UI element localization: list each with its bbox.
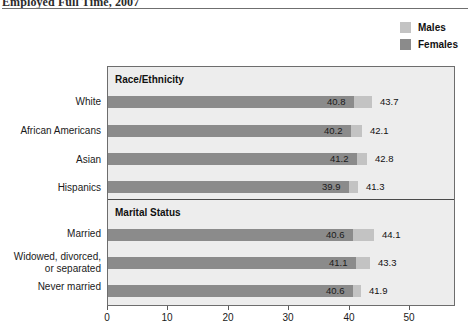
x-axis-label-30: 30 (282, 312, 293, 323)
x-axis: 0 10 20 30 40 50 (107, 306, 455, 331)
legend-item-females: Females (400, 39, 458, 50)
bar-females-married (108, 229, 353, 241)
bar-females-asian (108, 153, 357, 165)
category-label-white: White (75, 96, 101, 107)
bar-value-females-never-married: 40.6 (326, 286, 345, 296)
x-axis-tick-10 (167, 306, 168, 310)
category-label-asian: Asian (76, 154, 101, 165)
legend-swatch-males (400, 22, 411, 33)
category-label-married: Married (67, 228, 101, 239)
x-axis-label-50: 50 (403, 312, 414, 323)
bar-value-males-never-married: 41.9 (369, 286, 388, 296)
legend-label-females: Females (418, 39, 458, 50)
bar-females-white (108, 96, 354, 108)
bar-value-females-married: 40.6 (326, 230, 345, 240)
x-axis-tick-50 (409, 306, 410, 310)
category-label-african-americans: African Americans (20, 125, 101, 136)
bar-value-females-african-americans: 40.2 (324, 126, 343, 136)
chart-plot-area: Race/Ethnicity 40.8 43.7 40.2 42.1 41.2 … (107, 66, 455, 306)
panel-divider (108, 199, 454, 200)
bar-females-african-americans (108, 125, 351, 137)
category-label-hispanics: Hispanics (58, 182, 101, 193)
bar-value-females-hispanics: 39.9 (322, 182, 341, 192)
bar-value-males-asian: 42.8 (375, 154, 394, 164)
bar-value-females-asian: 41.2 (330, 154, 349, 164)
category-label-never-married: Never married (38, 281, 101, 292)
x-axis-label-40: 40 (343, 312, 354, 323)
panel-heading-race-ethnicity: Race/Ethnicity (115, 74, 184, 85)
category-label-widowed-divorced-separated: Widowed, divorced, or separated (14, 251, 101, 274)
bar-value-males-married: 44.1 (382, 230, 401, 240)
legend-label-males: Males (418, 22, 446, 33)
bar-females-never-married (108, 285, 353, 297)
bar-females-widowed-divorced-separated (108, 257, 356, 269)
bar-value-males-hispanics: 41.3 (366, 182, 385, 192)
x-axis-tick-0 (107, 306, 108, 310)
x-axis-label-10: 10 (161, 312, 172, 323)
bar-value-females-white: 40.8 (327, 97, 346, 107)
legend-swatch-females (400, 39, 411, 50)
x-axis-tick-30 (288, 306, 289, 310)
panel-heading-marital-status: Marital Status (115, 207, 181, 218)
chart-legend: Males Females (400, 22, 458, 50)
x-axis-tick-40 (349, 306, 350, 310)
x-axis-label-20: 20 (222, 312, 233, 323)
bar-value-males-widowed-divorced-separated: 43.3 (378, 258, 397, 268)
bar-value-males-white: 43.7 (380, 97, 399, 107)
x-axis-tick-20 (228, 306, 229, 310)
bar-value-females-widowed-divorced-separated: 41.1 (329, 258, 348, 268)
category-label-column: White African Americans Asian Hispanics … (0, 0, 104, 331)
bar-value-males-african-americans: 42.1 (370, 126, 389, 136)
legend-item-males: Males (400, 22, 458, 33)
bar-females-hispanics (108, 181, 349, 193)
x-axis-label-0: 0 (104, 312, 110, 323)
